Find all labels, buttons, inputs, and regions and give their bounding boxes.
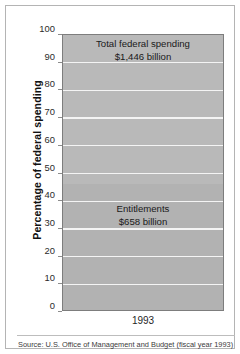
y-tick-label-40: 40	[27, 190, 55, 200]
y-tick-label-30: 30	[27, 218, 55, 228]
y-tick-label-60: 60	[27, 135, 55, 145]
gridline-40	[63, 201, 223, 202]
y-tick-label-80: 80	[27, 79, 55, 89]
y-tick-label-10: 10	[27, 273, 55, 283]
gridline-10	[63, 284, 223, 285]
entitlements-label-line1: Entitlements	[117, 203, 170, 214]
y-tick-mark-0	[58, 311, 62, 312]
total-label-line1: Total federal spending	[96, 38, 190, 49]
entitlements-label: Entitlements $658 billion	[63, 203, 223, 228]
y-tick-label-0: 0	[27, 301, 55, 311]
gridline-80	[63, 90, 223, 91]
total-federal-spending-label: Total federal spending $1,446 billion	[63, 38, 223, 63]
source-divider	[17, 335, 235, 336]
gridline-50	[63, 173, 223, 174]
y-tick-label-70: 70	[27, 107, 55, 117]
plot-area: Total federal spending $1,446 billion En…	[62, 34, 224, 311]
y-tick-label-50: 50	[27, 163, 55, 173]
gridline-30	[63, 228, 223, 229]
y-tick-label-90: 90	[27, 52, 55, 62]
entitlements-label-line2: $658 billion	[119, 216, 168, 227]
figure-border: Percentage of federal spending 010203040…	[5, 5, 235, 349]
chart-figure: Percentage of federal spending 010203040…	[0, 0, 240, 354]
gridline-60	[63, 145, 223, 146]
y-tick-label-20: 20	[27, 246, 55, 256]
source-note: Source: U.S. Office of Management and Bu…	[18, 340, 236, 349]
gridline-20	[63, 256, 223, 257]
total-label-line2: $1,446 billion	[115, 51, 172, 62]
gridline-70	[63, 117, 223, 118]
x-axis-tick-1993: 1993	[62, 315, 224, 326]
y-tick-label-100: 100	[27, 24, 55, 34]
